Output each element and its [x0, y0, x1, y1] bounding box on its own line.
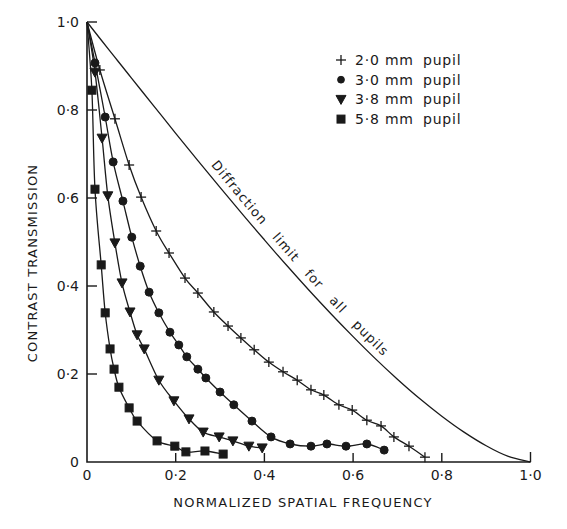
series-square: [87, 22, 227, 458]
diffraction-limit-curve: Diffraction limit for all pupils: [87, 22, 531, 462]
square-marker-icon: [91, 185, 99, 193]
x-axis-title: NORMALIZED SPATIAL FREQUENCY: [173, 495, 432, 510]
legend-item: 3·8 mmpupil: [336, 91, 461, 107]
y-tick-label: 0·8: [57, 102, 79, 118]
y-tick-label: 0: [70, 454, 79, 470]
square-marker-icon: [133, 417, 141, 425]
legend-label-size: 5·8 mm: [355, 111, 414, 127]
plus-marker-icon: [319, 390, 329, 400]
plus-marker-icon: [404, 441, 414, 451]
circle-marker-icon: [202, 374, 210, 382]
triangle-marker-icon: [97, 134, 107, 143]
x-tick-label: 1·0: [519, 467, 541, 483]
circle-marker-icon: [166, 328, 174, 336]
legend: 2·0 mmpupil3·0 mmpupil3·8 mmpupil5·8 mmp…: [336, 52, 461, 127]
axes: [87, 22, 531, 462]
square-marker-icon: [125, 404, 133, 412]
circle-marker-icon: [136, 262, 144, 270]
plus-marker-icon: [124, 160, 134, 170]
triangle-marker-icon: [110, 239, 120, 248]
square-marker-icon: [171, 442, 179, 450]
series-line: [87, 22, 223, 454]
circle-marker-icon: [230, 401, 238, 409]
legend-label-size: 3·0 mm: [355, 72, 414, 88]
square-marker-icon: [153, 437, 161, 445]
legend-label-word: pupil: [423, 72, 461, 88]
triangle-marker-icon: [257, 444, 267, 453]
legend-label-word: pupil: [423, 111, 461, 127]
diffraction-limit-label: Diffraction limit for all pupils: [208, 157, 392, 359]
square-marker-icon: [106, 345, 114, 353]
square-marker-icon: [110, 365, 118, 373]
plus-marker-icon: [110, 114, 120, 124]
triangle-marker-icon: [198, 428, 208, 437]
series-plus: [87, 22, 430, 462]
circle-marker-icon: [248, 417, 256, 425]
x-tick-label: 0·8: [431, 467, 453, 483]
legend-label-word: pupil: [423, 91, 461, 107]
y-tick-label: 0·4: [57, 278, 79, 294]
x-tick-label: 0·2: [165, 467, 187, 483]
circle-marker-icon: [183, 353, 191, 361]
y-tick-label: 0·6: [57, 190, 79, 206]
y-tick-label: 1·0: [57, 14, 79, 30]
plus-marker-icon: [306, 385, 316, 395]
plus-marker-icon: [347, 405, 357, 415]
square-marker-icon: [115, 383, 123, 391]
chart-canvas: 00·20·40·60·81·0 00·20·40·60·81·0 NORMAL…: [0, 0, 567, 529]
square-marker-icon: [201, 447, 209, 455]
plus-marker-icon: [362, 415, 372, 425]
square-marker-icon: [337, 115, 345, 123]
series-circle: [87, 22, 388, 454]
circle-marker-icon: [216, 388, 224, 396]
triangle-marker-icon: [117, 279, 127, 288]
circle-marker-icon: [101, 113, 109, 121]
plus-marker-icon: [136, 192, 146, 202]
legend-label-size: 3·8 mm: [355, 91, 414, 107]
legend-label-word: pupil: [423, 52, 461, 68]
circle-marker-icon: [145, 288, 153, 296]
circle-marker-icon: [194, 365, 202, 373]
square-marker-icon: [219, 450, 227, 458]
circle-marker-icon: [380, 446, 388, 454]
circle-marker-icon: [91, 59, 99, 67]
legend-label-size: 2·0 mm: [355, 52, 414, 68]
chart-figure: 00·20·40·60·81·0 00·20·40·60·81·0 NORMAL…: [0, 0, 567, 529]
x-tick-label: 0·4: [253, 467, 275, 483]
plus-marker-icon: [420, 452, 430, 462]
data-series: [87, 22, 430, 462]
legend-item: 5·8 mmpupil: [337, 111, 461, 127]
plus-marker-icon: [336, 55, 346, 65]
series-line: [87, 22, 262, 448]
circle-marker-icon: [175, 341, 183, 349]
circle-marker-icon: [286, 440, 294, 448]
circle-marker-icon: [155, 309, 163, 317]
triangle-marker-icon: [132, 331, 142, 340]
plus-marker-icon: [334, 400, 344, 410]
x-axis-ticks: 00·20·40·60·81·0: [83, 452, 542, 483]
circle-marker-icon: [119, 197, 127, 205]
y-tick-label: 0·2: [57, 366, 79, 382]
triangle-marker-icon: [336, 95, 346, 104]
triangle-marker-icon: [103, 192, 113, 201]
triangle-marker-icon: [154, 376, 164, 385]
circle-marker-icon: [307, 442, 315, 450]
circle-marker-icon: [267, 433, 275, 441]
y-axis-title: CONTRAST TRANSMISSION: [25, 164, 40, 363]
square-marker-icon: [88, 86, 96, 94]
axis-lines: [87, 22, 531, 462]
circle-marker-icon: [342, 442, 350, 450]
square-marker-icon: [97, 261, 105, 269]
triangle-marker-icon: [139, 345, 149, 354]
diffraction-limit-line: [87, 22, 531, 462]
plus-marker-icon: [292, 375, 302, 385]
circle-marker-icon: [363, 440, 371, 448]
triangle-marker-icon: [125, 308, 135, 317]
circle-marker-icon: [323, 440, 331, 448]
circle-marker-icon: [128, 233, 136, 241]
legend-item: 2·0 mmpupil: [336, 52, 461, 68]
legend-item: 3·0 mmpupil: [338, 72, 462, 88]
plus-marker-icon: [164, 248, 174, 258]
circle-marker-icon: [109, 158, 117, 166]
square-marker-icon: [101, 309, 109, 317]
